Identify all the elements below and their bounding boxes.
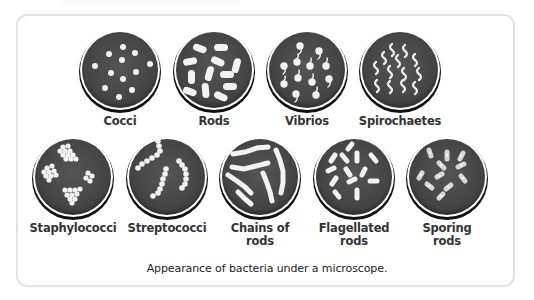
vibrios-item: Vibrios	[259, 28, 355, 128]
rods-item: Rods	[166, 28, 262, 128]
sporing-rods-label-line2: rods	[399, 235, 495, 248]
cocci-label: Cocci	[72, 115, 168, 128]
vibrios-label: Vibrios	[259, 115, 355, 128]
streptococci-item: Streptococci	[119, 135, 215, 235]
chains-of-rods-label-line2: rods	[212, 235, 308, 248]
figure-caption: Appearance of bacteria under a microscop…	[0, 262, 534, 275]
staphylococci-label: Staphylococci	[25, 222, 121, 235]
top-fade-decoration	[60, 0, 240, 8]
flagellated-rods-label: Flagellated rods	[306, 222, 402, 248]
staphylococci-item: Staphylococci	[25, 135, 121, 235]
chains-of-rods-label: Chains of rods	[212, 222, 308, 248]
chains-of-rods-item: Chains of rods	[212, 135, 308, 248]
rods-label: Rods	[166, 115, 262, 128]
sporing-rods-item: Sporing rods	[399, 135, 495, 248]
staphylococci-dish-icon	[30, 135, 116, 221]
cocci-item: Cocci	[72, 28, 168, 128]
spirochaetes-label: Spirochaetes	[352, 115, 448, 128]
streptococci-label: Streptococci	[119, 222, 215, 235]
cocci-dish-icon	[77, 28, 163, 114]
rods-dish-icon	[171, 28, 257, 114]
spirochaetes-item: Spirochaetes	[352, 28, 448, 128]
flagellated-rods-label-line2: rods	[306, 235, 402, 248]
flagellated-rods-dish-icon	[311, 135, 397, 221]
streptococci-dish-icon	[124, 135, 210, 221]
flagellated-rods-item: Flagellated rods	[306, 135, 402, 248]
sporing-rods-dish-icon	[404, 135, 490, 221]
spirochaetes-dish-icon	[357, 28, 443, 114]
vibrios-dish-icon	[264, 28, 350, 114]
sporing-rods-label: Sporing rods	[399, 222, 495, 248]
chains-of-rods-dish-icon	[217, 135, 303, 221]
